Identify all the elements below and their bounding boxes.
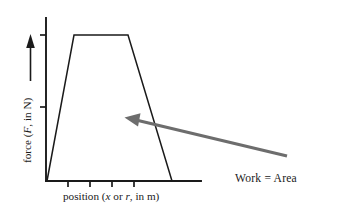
y-axis-label-suffix: , in N) [21,97,34,126]
figure-canvas: force (F, in N) position (x or r, in m) … [0,0,351,217]
force-position-diagram: force (F, in N) position (x or r, in m) … [0,0,351,217]
work-equals-area-note: Work = Area [235,172,297,185]
up-arrow-icon [26,34,35,48]
x-axis-label: position (x or r, in m) [63,190,160,203]
x-axis-label-suffix: , in m) [130,190,160,203]
y-axis-label-prefix: force ( [21,133,34,163]
area-pointer-arrow-head [125,113,141,126]
x-axis-label-mid: or [111,190,126,202]
force-curve-trapezoid [47,35,172,181]
x-axis-label-prefix: position ( [63,190,106,203]
y-axis-label: force (F, in N) [21,97,34,163]
y-axis-label-symbol: F [21,127,33,135]
